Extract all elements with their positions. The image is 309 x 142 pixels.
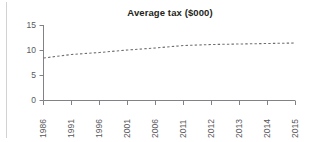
x-tick-label-2014: 2014 bbox=[263, 119, 272, 138]
data-series-line bbox=[44, 43, 296, 58]
y-tick-label-0: 0 bbox=[18, 96, 36, 105]
y-tick-marks bbox=[40, 26, 44, 101]
chart-container: Average tax ($000) bbox=[0, 0, 309, 142]
x-tick-label-2011: 2011 bbox=[179, 120, 188, 138]
plot-area: 15 10 5 0 1986 1991 1996 2001 2006 2011 … bbox=[0, 0, 309, 142]
x-tick-label-2015: 2015 bbox=[291, 119, 300, 138]
x-tick-label-2001: 2001 bbox=[123, 119, 132, 138]
x-tick-label-2013: 2013 bbox=[235, 119, 244, 138]
x-tick-label-1986: 1986 bbox=[39, 119, 48, 138]
x-tick-label-2006: 2006 bbox=[151, 119, 160, 138]
x-tick-marks bbox=[44, 101, 296, 106]
y-tick-label-5: 5 bbox=[18, 71, 36, 80]
y-tick-label-15: 15 bbox=[18, 21, 36, 30]
x-tick-label-2012: 2012 bbox=[207, 119, 216, 138]
y-tick-label-10: 10 bbox=[18, 46, 36, 55]
x-tick-label-1991: 1991 bbox=[67, 119, 76, 138]
x-tick-label-1996: 1996 bbox=[95, 119, 104, 138]
